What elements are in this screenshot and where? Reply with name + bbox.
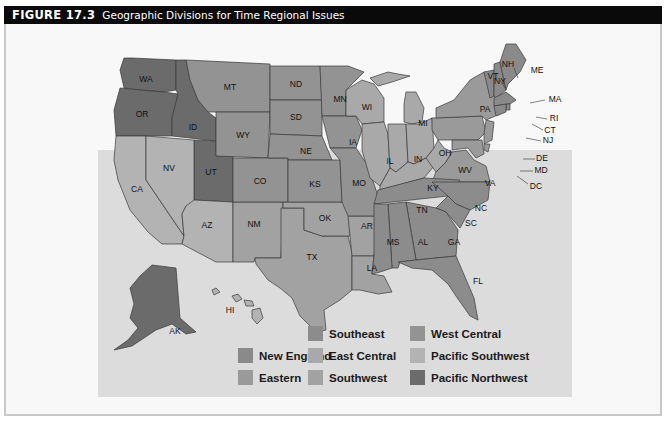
- label-IA: IA: [349, 137, 357, 147]
- label-OR: OR: [136, 109, 149, 119]
- label-PA: PA: [480, 104, 491, 114]
- legend-label: Southwest: [329, 372, 387, 384]
- legend-swatch-southeast: [308, 326, 323, 341]
- state-NJ: [484, 120, 494, 144]
- label-FL: FL: [473, 276, 483, 286]
- label-AZ: AZ: [202, 220, 213, 230]
- legend-label: Eastern: [259, 372, 301, 384]
- label-MO: MO: [352, 178, 366, 188]
- legend-swatch-east-central: [308, 348, 323, 363]
- state-DE: [484, 144, 490, 152]
- label-RI: RI: [550, 113, 559, 123]
- label-NM: NM: [247, 219, 260, 229]
- legend-item-southwest: Southwest: [308, 370, 387, 385]
- legend-swatch-southwest: [308, 370, 323, 385]
- label-WY: WY: [236, 130, 250, 140]
- state-HI-3: [244, 300, 254, 306]
- legend-swatch-eastern: [238, 370, 253, 385]
- label-UT: UT: [205, 167, 216, 177]
- legend-item-pacific-southwest: Pacific Southwest: [410, 348, 529, 363]
- legend-swatch-pacific-southwest: [410, 348, 425, 363]
- label-AK: AK: [169, 326, 181, 336]
- label-IN: IN: [414, 154, 423, 164]
- state-MI-UP: [370, 72, 410, 86]
- label-MS: MS: [387, 237, 400, 247]
- legend-item-eastern: Eastern: [238, 370, 301, 385]
- label-VA: VA: [485, 178, 496, 188]
- legend-label: Southeast: [329, 328, 385, 340]
- label-MT: MT: [224, 82, 236, 92]
- label-AL: AL: [418, 237, 429, 247]
- label-GA: GA: [448, 237, 461, 247]
- label-OH: OH: [439, 148, 452, 158]
- state-AK: [114, 265, 196, 350]
- label-NJ: NJ: [543, 135, 553, 145]
- label-KY: KY: [427, 183, 439, 193]
- label-TX: TX: [307, 252, 318, 262]
- label-MN: MN: [333, 94, 346, 104]
- label-KS: KS: [309, 179, 321, 189]
- label-ME: ME: [531, 65, 544, 75]
- state-HI-1: [212, 288, 220, 295]
- state-RI: [506, 104, 510, 110]
- state-HI-4: [252, 308, 263, 324]
- label-LA: LA: [367, 263, 378, 273]
- label-IL: IL: [386, 156, 393, 166]
- state-AZ: [182, 200, 233, 262]
- legend: Southeast West Central New England East …: [236, 326, 566, 392]
- label-WI: WI: [362, 102, 372, 112]
- label-MD: MD: [534, 165, 547, 175]
- label-HI: HI: [226, 305, 235, 315]
- legend-swatch-new-england: [238, 348, 253, 363]
- label-TN: TN: [416, 205, 427, 215]
- state-NM: [233, 202, 283, 262]
- label-NV: NV: [163, 163, 175, 173]
- state-HI-2: [232, 294, 242, 302]
- state-CT: [494, 104, 506, 116]
- label-NE: NE: [300, 146, 312, 156]
- legend-item-west-central: West Central: [410, 326, 501, 341]
- label-OK: OK: [319, 213, 332, 223]
- label-CT: CT: [544, 125, 555, 135]
- label-ND: ND: [290, 79, 302, 89]
- legend-label: East Central: [329, 350, 396, 362]
- label-SC: SC: [465, 218, 477, 228]
- label-WA: WA: [139, 74, 153, 84]
- state-FL: [398, 256, 478, 320]
- label-DE: DE: [536, 153, 548, 163]
- label-MI: MI: [418, 118, 427, 128]
- legend-label: West Central: [431, 328, 501, 340]
- legend-item-pacific-northwest: Pacific Northwest: [410, 370, 528, 385]
- label-WV: WV: [458, 165, 472, 175]
- label-NC: NC: [475, 203, 487, 213]
- label-DC: DC: [530, 181, 542, 191]
- label-NH: NH: [502, 59, 514, 69]
- label-CA: CA: [131, 184, 143, 194]
- label-VT: VT: [488, 71, 499, 81]
- legend-swatch-pacific-northwest: [410, 370, 425, 385]
- label-AR: AR: [361, 221, 373, 231]
- legend-item-east-central: East Central: [308, 348, 396, 363]
- legend-label: Pacific Southwest: [431, 350, 529, 362]
- legend-item-southeast: Southeast: [308, 326, 385, 341]
- legend-label: Pacific Northwest: [431, 372, 528, 384]
- legend-swatch-west-central: [410, 326, 425, 341]
- state-PA: [432, 116, 486, 140]
- label-SD: SD: [290, 112, 302, 122]
- label-MA: MA: [549, 94, 562, 104]
- label-CO: CO: [254, 176, 267, 186]
- label-ID: ID: [189, 122, 198, 132]
